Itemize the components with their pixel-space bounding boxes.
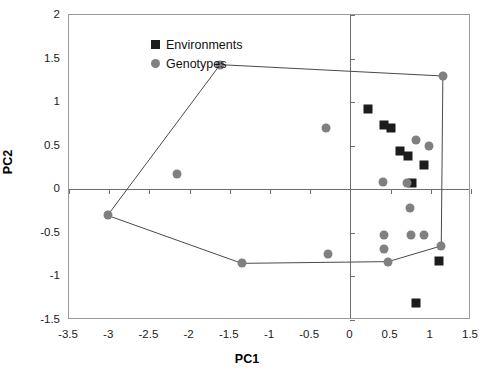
genotype-point xyxy=(172,169,181,178)
environment-point xyxy=(420,160,429,169)
y-tick-label: -0.5 xyxy=(22,226,60,238)
x-tick xyxy=(471,189,472,194)
x-tick-label: -0.5 xyxy=(299,328,319,340)
x-tick-label: -2 xyxy=(183,328,193,340)
genotype-point xyxy=(322,124,331,133)
x-axis-title: PC1 xyxy=(0,352,494,366)
x-tick-label: 0 xyxy=(346,328,352,340)
x-tick-label: -3 xyxy=(103,328,113,340)
genotype-point xyxy=(406,230,415,239)
x-tick-label: 1.5 xyxy=(462,328,478,340)
genotype-point xyxy=(438,72,447,81)
genotype-point xyxy=(237,259,246,268)
genotype-point xyxy=(380,230,389,239)
x-tick-label: 1 xyxy=(427,328,433,340)
x-tick-label: 0.5 xyxy=(382,328,398,340)
y-tick-label: 0.5 xyxy=(22,139,60,151)
genotype-point xyxy=(425,141,434,150)
y-tick xyxy=(350,320,355,321)
genotype-point xyxy=(437,241,446,250)
genotype-point xyxy=(103,211,112,220)
legend-item-genotypes: Genotypes xyxy=(151,54,242,73)
genotype-point xyxy=(384,257,393,266)
x-tick-label: -2.5 xyxy=(138,328,158,340)
y-tick-label: 0 xyxy=(22,182,60,194)
x-tick-label: -3.5 xyxy=(58,328,78,340)
genotype-point xyxy=(378,178,387,187)
chart-legend: Environments Genotypes xyxy=(151,35,242,73)
legend-label-environments: Environments xyxy=(166,38,242,52)
environment-point xyxy=(434,256,443,265)
square-marker-icon xyxy=(151,40,160,49)
y-tick-label: 1 xyxy=(22,95,60,107)
y-tick-label: 2 xyxy=(22,8,60,20)
x-tick-label: -1.5 xyxy=(219,328,239,340)
y-tick-label: -1.5 xyxy=(22,313,60,325)
genotype-point xyxy=(402,179,411,188)
environment-point xyxy=(404,152,413,161)
environment-point xyxy=(364,105,373,114)
legend-label-genotypes: Genotypes xyxy=(166,57,226,71)
genotype-point xyxy=(412,135,421,144)
pc1-pc2-biplot: PC2 PC1 -1.5-1-0.500.511.52 -3.5-3-2.5-2… xyxy=(0,0,494,382)
genotype-point xyxy=(405,204,414,213)
plot-frame: Environments Genotypes xyxy=(68,14,470,319)
plot-area xyxy=(69,15,469,318)
genotype-point xyxy=(420,230,429,239)
environment-point xyxy=(386,124,395,133)
genotype-point xyxy=(323,249,332,258)
genotype-convex-hull xyxy=(69,15,471,320)
genotype-point xyxy=(380,244,389,253)
y-tick-label: -1 xyxy=(22,269,60,281)
y-tick-label: 1.5 xyxy=(22,52,60,64)
circle-marker-icon xyxy=(151,59,160,68)
environment-point xyxy=(412,298,421,307)
legend-item-environments: Environments xyxy=(151,35,242,54)
y-axis-title: PC2 xyxy=(1,132,15,192)
x-tick-label: -1 xyxy=(264,328,274,340)
